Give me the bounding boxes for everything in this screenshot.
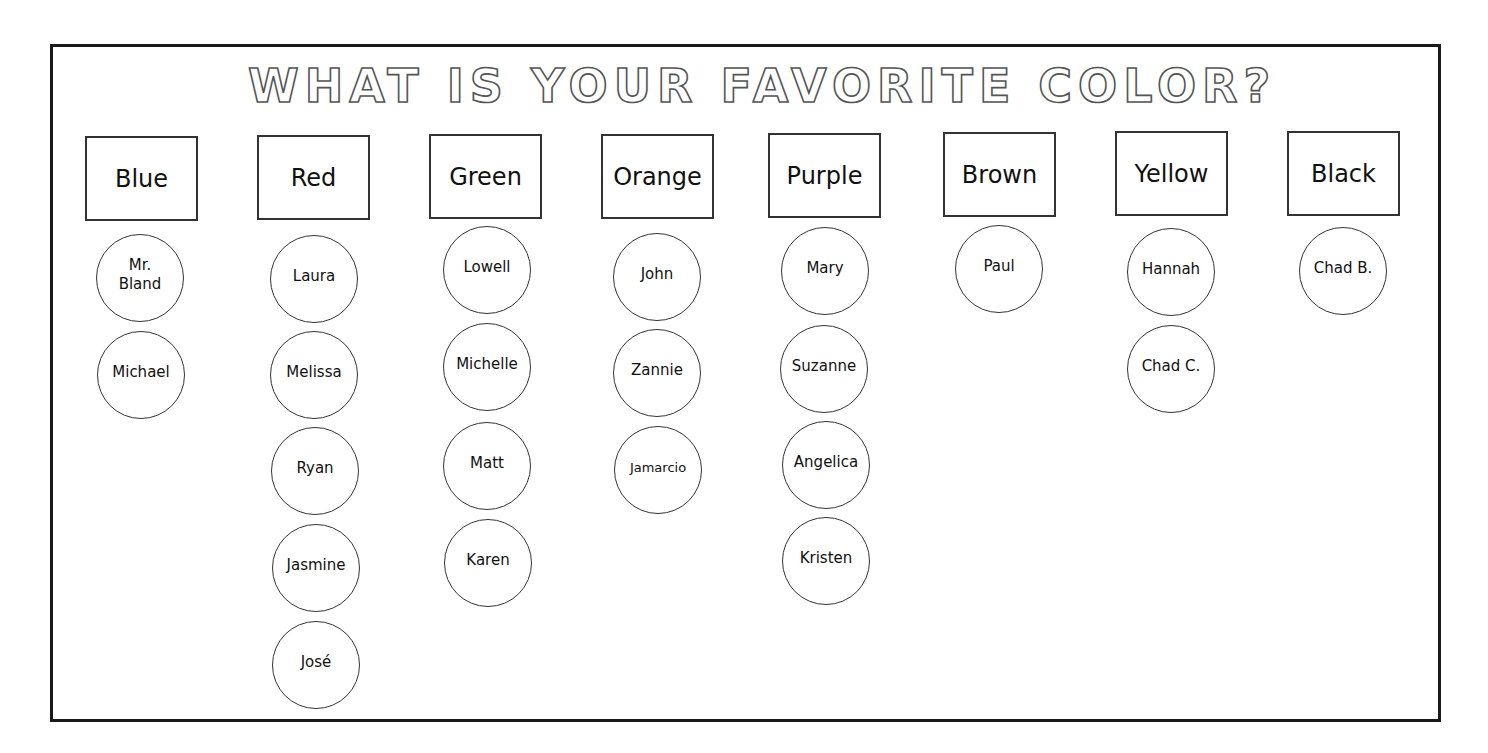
student-bubble: Hannah (1127, 228, 1215, 316)
student-name: Angelica (794, 453, 858, 472)
student-name: José (301, 653, 332, 672)
student-bubble: Suzanne (780, 325, 868, 413)
student-name: Lowell (463, 258, 510, 277)
student-name: Michael (112, 363, 169, 382)
student-bubble: Ryan (271, 427, 359, 515)
student-bubble: Kristen (782, 517, 870, 605)
column-header-red: Red (257, 135, 370, 220)
student-bubble: Zannie (613, 329, 701, 417)
student-name: Chad C. (1142, 357, 1201, 376)
student-bubble: Jasmine (272, 524, 360, 612)
student-name: Matt (470, 454, 504, 473)
student-bubble: Michael (97, 331, 185, 419)
column-header-green: Green (429, 134, 542, 219)
student-bubble: Michelle (443, 323, 531, 411)
student-bubble: Matt (443, 422, 531, 510)
student-bubble: Lowell (443, 226, 531, 314)
student-bubble: Chad C. (1127, 325, 1215, 413)
column-header-brown: Brown (943, 132, 1056, 217)
column-header-blue: Blue (85, 136, 198, 221)
student-bubble: Chad B. (1299, 227, 1387, 315)
student-bubble: Mary (781, 227, 869, 315)
student-bubble: Laura (270, 235, 358, 323)
student-name: Ryan (296, 459, 333, 478)
student-bubble: Paul (955, 225, 1043, 313)
student-name: Suzanne (792, 357, 856, 376)
student-name: Laura (293, 267, 335, 286)
student-name: Hannah (1142, 260, 1200, 279)
student-name: Jamarcio (630, 458, 686, 477)
student-bubble: Mr. Bland (96, 234, 184, 322)
page-title: WHAT IS YOUR FAVORITE COLOR? (248, 58, 1238, 114)
student-name: John (641, 265, 674, 284)
column-header-black: Black (1287, 131, 1400, 216)
student-bubble: Jamarcio (614, 426, 702, 514)
student-name: Melissa (286, 363, 341, 382)
student-name: Zannie (631, 361, 683, 380)
student-bubble: Karen (444, 519, 532, 607)
student-name: Mr. Bland (119, 256, 162, 294)
column-header-orange: Orange (601, 134, 714, 219)
student-name: Kristen (800, 549, 853, 568)
column-header-purple: Purple (768, 133, 881, 218)
student-name: Mary (806, 259, 843, 278)
student-name: Paul (983, 257, 1014, 276)
student-bubble: Melissa (270, 331, 358, 419)
student-name: Jasmine (287, 556, 346, 575)
student-bubble: José (272, 621, 360, 709)
student-name: Karen (466, 551, 509, 570)
student-bubble: John (613, 233, 701, 321)
student-name: Chad B. (1314, 259, 1373, 278)
student-bubble: Angelica (782, 421, 870, 509)
student-name: Michelle (456, 355, 518, 374)
column-header-yellow: Yellow (1115, 131, 1228, 216)
